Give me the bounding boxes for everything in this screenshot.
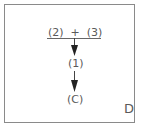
node-1: (1) (68, 58, 84, 70)
arrow-down-icon (71, 71, 78, 92)
arrow-down-icon (71, 38, 78, 56)
panel-label: D (124, 102, 134, 116)
node-c: (C) (67, 94, 83, 106)
